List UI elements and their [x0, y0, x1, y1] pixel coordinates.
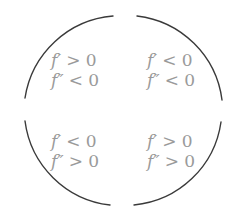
- f-prime: f′: [147, 131, 157, 151]
- first-derivative-condition: f′> 0: [51, 50, 99, 70]
- f-double-prime: f″: [51, 151, 64, 171]
- relation: < 0: [162, 50, 192, 70]
- relation: > 0: [69, 151, 99, 171]
- f-prime: f′: [51, 131, 61, 151]
- relation: < 0: [69, 70, 99, 90]
- f-double-prime: f″: [147, 151, 160, 171]
- f-double-prime: f″: [51, 70, 64, 90]
- relation: > 0: [66, 50, 96, 70]
- f-double-prime: f″: [147, 70, 160, 90]
- second-derivative-condition: f″> 0: [51, 151, 99, 171]
- second-derivative-condition: f″> 0: [147, 151, 195, 171]
- circle-arcs: [0, 0, 235, 213]
- quadrant-top-left-label: f′> 0 f″< 0: [51, 50, 99, 90]
- quadrant-bottom-left-label: f′< 0 f″> 0: [51, 131, 99, 171]
- relation: < 0: [66, 131, 96, 151]
- concavity-circle-diagram: f′> 0 f″< 0 f′< 0 f″< 0 f′< 0 f″> 0 f′> …: [0, 0, 235, 213]
- quadrant-bottom-right-label: f′> 0 f″> 0: [147, 131, 195, 171]
- first-derivative-condition: f′< 0: [51, 131, 99, 151]
- first-derivative-condition: f′< 0: [147, 50, 195, 70]
- f-prime: f′: [51, 50, 61, 70]
- second-derivative-condition: f″< 0: [147, 70, 195, 90]
- quadrant-top-right-label: f′< 0 f″< 0: [147, 50, 195, 90]
- first-derivative-condition: f′> 0: [147, 131, 195, 151]
- relation: > 0: [165, 151, 195, 171]
- relation: < 0: [165, 70, 195, 90]
- second-derivative-condition: f″< 0: [51, 70, 99, 90]
- relation: > 0: [162, 131, 192, 151]
- f-prime: f′: [147, 50, 157, 70]
